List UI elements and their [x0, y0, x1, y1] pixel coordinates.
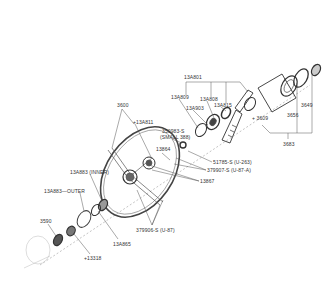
- part-label-13A809: 13A809: [171, 94, 189, 100]
- part-label-3600: 3600: [117, 102, 129, 108]
- part-label-13A903: 13A903: [186, 105, 204, 111]
- part-label-3683: 3683: [283, 141, 295, 147]
- part-label-13867: 13867: [200, 178, 214, 184]
- part-label-13A815: 13A815: [214, 102, 232, 108]
- part-label-3649: 3649: [301, 102, 313, 108]
- part-label-13A811: +13A811: [133, 119, 154, 125]
- part-label-3656: 3656: [287, 112, 299, 118]
- part-label-13864: 13864: [156, 146, 170, 152]
- part-label-3590: 3590: [40, 218, 52, 224]
- part-label-379906: 379906-S (U-87): [136, 227, 175, 233]
- diagram-artwork: [0, 0, 328, 287]
- part-label-13318: +13318: [84, 255, 101, 261]
- part-label-13A801: 13A801: [184, 74, 202, 80]
- part-label-51785: 51785-S (U-263): [213, 159, 252, 165]
- part-label-13A883-inner: 13A883 (INNER): [70, 169, 109, 175]
- part-label-13A883-outer: 13A883—OUTER: [44, 188, 85, 194]
- steering-wheel-exploded-diagram: 13A801 13A809 13A808 13A903 13A815 3649 …: [0, 0, 328, 287]
- part-label-3609: + 3609: [252, 115, 268, 121]
- part-label-350983-note: (SMALL 388): [160, 134, 190, 140]
- part-label-13A865: 13A865: [113, 241, 131, 247]
- part-label-379907: 379907-S (U-87-A): [207, 167, 251, 173]
